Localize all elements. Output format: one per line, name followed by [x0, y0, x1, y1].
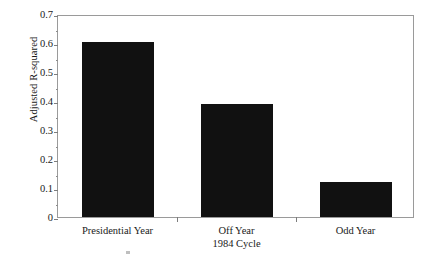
y-tick-mark [54, 74, 58, 75]
x-category-name: Off Year [219, 225, 255, 236]
x-axis-tick-mark [296, 217, 297, 222]
scan-artifact-speck [126, 251, 130, 254]
x-category-sublabel: 1984 Cycle [177, 237, 296, 250]
y-minor-tick-mark [56, 89, 58, 90]
y-tick-mark [54, 219, 58, 220]
x-axis-category-label: Presidential Year [58, 224, 177, 237]
y-tick-mark [54, 45, 58, 46]
y-minor-tick-mark [56, 31, 58, 32]
x-axis-category-label: Odd Year [296, 224, 415, 237]
y-minor-tick-mark [56, 118, 58, 119]
bar-chart-figure: Adjusted R-squared 00.10.20.30.40.50.60.… [0, 0, 428, 262]
y-tick-label: 0.5 [40, 67, 53, 78]
y-tick-mark [54, 103, 58, 104]
y-minor-tick-mark [56, 205, 58, 206]
y-minor-tick-mark [56, 147, 58, 148]
bar [82, 42, 154, 217]
x-category-name: Presidential Year [82, 225, 153, 236]
bar [201, 104, 273, 217]
y-minor-tick-mark [56, 176, 58, 177]
x-axis-tick-mark [177, 217, 178, 222]
x-category-name: Odd Year [336, 225, 376, 236]
y-tick-label: 0.4 [40, 96, 53, 107]
y-tick-label: 0 [48, 212, 53, 223]
y-tick-label: 0.2 [40, 154, 53, 165]
y-tick-mark [54, 190, 58, 191]
y-tick-label: 0.7 [40, 9, 53, 20]
plot-area: 00.10.20.30.40.50.60.7Presidential YearO… [57, 15, 414, 218]
y-tick-mark [54, 16, 58, 17]
y-minor-tick-mark [56, 60, 58, 61]
x-axis-category-label: Off Year1984 Cycle [177, 224, 296, 250]
y-axis-title: Adjusted R-squared [28, 0, 39, 160]
bar [320, 182, 392, 217]
y-tick-label: 0.3 [40, 125, 53, 136]
y-tick-mark [54, 132, 58, 133]
y-tick-label: 0.1 [40, 183, 53, 194]
bars-layer [58, 16, 413, 217]
y-tick-label: 0.6 [40, 38, 53, 49]
y-tick-mark [54, 161, 58, 162]
